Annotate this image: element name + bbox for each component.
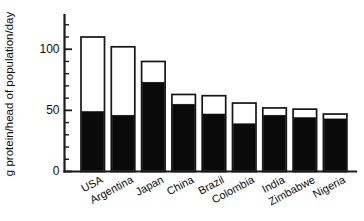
bar-india bbox=[263, 108, 287, 172]
bar-china bbox=[172, 94, 196, 171]
y-axis-tick-labels: 050100 bbox=[39, 42, 59, 178]
bar-segment-animal bbox=[324, 119, 346, 171]
bar-segment-animal bbox=[143, 82, 165, 170]
y-axis-ticks bbox=[65, 25, 73, 172]
y-tick-label: 50 bbox=[46, 103, 60, 117]
bar-japan bbox=[142, 61, 166, 171]
category-labels: USAArgentinaJapanChinaBrazilColombiaIndi… bbox=[79, 173, 348, 208]
bar-nigeria bbox=[323, 114, 347, 171]
y-axis-title: g protein/head of population/day bbox=[3, 12, 15, 177]
bar-brazil bbox=[202, 96, 226, 172]
bar-group bbox=[81, 37, 347, 171]
bar-segment-animal bbox=[294, 118, 316, 171]
protein-bar-chart: g protein/head of population/day 050100 … bbox=[0, 0, 364, 221]
bar-segment-animal bbox=[173, 104, 195, 170]
chart-canvas: g protein/head of population/day 050100 … bbox=[0, 0, 364, 221]
bar-usa bbox=[81, 37, 105, 171]
bar-segment-animal bbox=[82, 112, 104, 171]
category-label-nigeria: Nigeria bbox=[311, 173, 348, 200]
bar-segment-animal bbox=[112, 115, 134, 170]
bar-argentina bbox=[111, 47, 135, 172]
bar-zimbabwe bbox=[293, 109, 317, 171]
bar-segment-animal bbox=[233, 124, 255, 171]
y-tick-label: 0 bbox=[53, 164, 60, 178]
bar-segment-animal bbox=[203, 114, 225, 171]
category-label-china: China bbox=[165, 173, 197, 198]
bar-colombia bbox=[233, 103, 257, 171]
bar-segment-animal bbox=[264, 115, 286, 170]
category-label-japan: Japan bbox=[133, 173, 165, 198]
y-tick-label: 100 bbox=[39, 42, 59, 56]
